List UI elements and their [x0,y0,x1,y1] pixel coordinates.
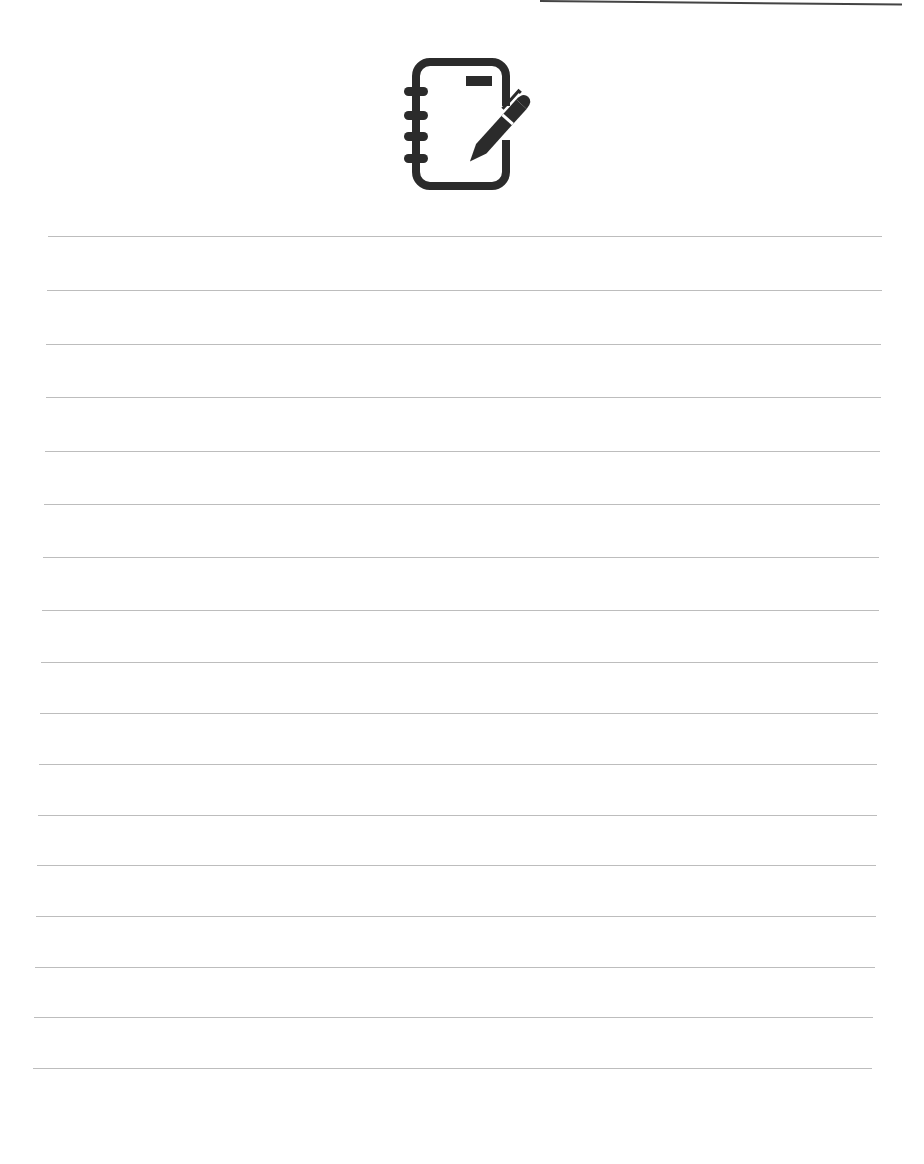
ruled-line [35,967,875,968]
ruled-lines [0,0,924,1164]
ruled-line [43,557,879,558]
ruled-line [46,397,881,398]
ruled-line [34,1017,873,1018]
ruled-line [44,504,880,505]
ruled-line [40,713,878,714]
ruled-line [33,1068,872,1069]
ruled-line [48,236,882,237]
ruled-line [36,916,876,917]
ruled-line [38,815,877,816]
ruled-line [39,764,877,765]
ruled-line [42,610,879,611]
ruled-line [37,865,876,866]
ruled-line [47,290,882,291]
ruled-line [46,344,881,345]
ruled-line [45,451,880,452]
ruled-line [41,662,878,663]
